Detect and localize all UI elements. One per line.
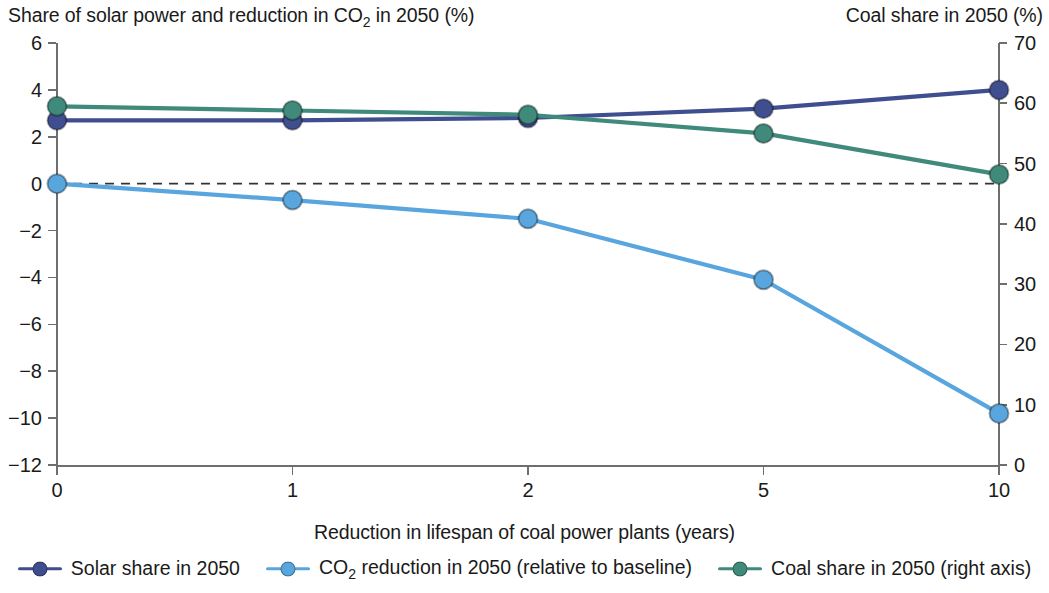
y-axis-right-tick-label: 0: [1014, 454, 1025, 477]
legend-label: Coal share in 2050 (right axis): [771, 557, 1031, 580]
data-point-marker[interactable]: [283, 101, 302, 120]
y-axis-left-tick-label: −6: [19, 313, 42, 336]
plot-area: [57, 43, 999, 465]
legend-label: Solar share in 2050: [71, 557, 240, 580]
y-axis-right-tick: [999, 42, 1007, 44]
data-point-marker[interactable]: [990, 404, 1009, 423]
x-axis-title: Reduction in lifespan of coal power plan…: [0, 521, 1049, 544]
plot-svg: [57, 43, 999, 465]
y-axis-left-tick-label: −4: [19, 266, 42, 289]
x-axis-tick-label: 0: [51, 479, 62, 502]
y-axis-left-tick-label: 6: [31, 32, 42, 55]
y-axis-left-tick: [48, 324, 56, 326]
legend-marker-icon: [18, 558, 62, 580]
y-axis-left-tick: [48, 370, 56, 372]
y-axis-right-tick: [999, 223, 1007, 225]
y-axis-right-tick-label: 10: [1014, 393, 1036, 416]
left-axis-title-tail: in 2050 (%): [371, 4, 475, 26]
data-point-marker[interactable]: [754, 270, 773, 289]
legend-item[interactable]: Solar share in 2050: [18, 557, 240, 580]
y-axis-left-tick: [48, 136, 56, 138]
y-axis-right-tick-label: 50: [1014, 152, 1036, 175]
left-axis-title: Share of solar power and reduction in CO…: [8, 4, 474, 30]
chart-legend: Solar share in 2050CO2 reduction in 2050…: [0, 556, 1049, 582]
data-point-marker[interactable]: [283, 191, 302, 210]
right-axis-title: Coal share in 2050 (%): [846, 4, 1043, 27]
legend-label: CO2 reduction in 2050 (relative to basel…: [319, 556, 692, 582]
series-group: [48, 80, 1009, 423]
x-axis-tick: [998, 466, 1000, 475]
y-axis-right-tick: [999, 102, 1007, 104]
x-axis-tick-label: 2: [522, 479, 533, 502]
y-axis-left-tick: [48, 464, 56, 466]
left-axis-title-subscript: 2: [363, 14, 371, 30]
x-axis-tick: [292, 466, 294, 475]
data-point-marker[interactable]: [519, 105, 538, 124]
data-point-marker[interactable]: [754, 99, 773, 118]
y-axis-left-tick-label: 2: [31, 125, 42, 148]
y-axis-right-tick: [999, 283, 1007, 285]
y-axis-left-tick-label: 0: [31, 172, 42, 195]
y-axis-right-tick: [999, 344, 1007, 346]
y-axis-left-tick: [48, 42, 56, 44]
data-point-marker[interactable]: [990, 165, 1009, 184]
data-point-marker[interactable]: [519, 209, 538, 228]
y-axis-right-tick-label: 60: [1014, 92, 1036, 115]
y-axis-left-tick-label: 4: [31, 78, 42, 101]
y-axis-right-tick-label: 70: [1014, 32, 1036, 55]
y-axis-left-tick: [48, 277, 56, 279]
x-axis-tick-label: 5: [758, 479, 769, 502]
y-axis-left-tick: [48, 230, 56, 232]
x-axis-tick-label: 10: [988, 479, 1010, 502]
y-axis-right-tick-label: 20: [1014, 333, 1036, 356]
chart-figure: Share of solar power and reduction in CO…: [0, 0, 1049, 593]
y-axis-left-tick-label: −12: [8, 454, 42, 477]
data-point-marker[interactable]: [990, 80, 1009, 99]
x-axis-tick: [527, 466, 529, 475]
x-axis-tick-label: 1: [287, 479, 298, 502]
legend-dot: [32, 561, 47, 576]
data-point-marker[interactable]: [754, 124, 773, 143]
legend-marker-icon: [266, 558, 310, 580]
data-point-marker[interactable]: [48, 97, 67, 116]
legend-item[interactable]: Coal share in 2050 (right axis): [718, 557, 1031, 580]
y-axis-right-tick-label: 40: [1014, 212, 1036, 235]
legend-item[interactable]: CO2 reduction in 2050 (relative to basel…: [266, 556, 692, 582]
y-axis-left-tick-label: −10: [8, 407, 42, 430]
legend-dot: [733, 561, 748, 576]
y-axis-right-tick-label: 30: [1014, 273, 1036, 296]
x-axis-tick: [56, 466, 58, 475]
legend-marker-icon: [718, 558, 762, 580]
y-axis-right-tick: [999, 464, 1007, 466]
legend-dot: [280, 561, 295, 576]
y-axis-left-tick-label: −8: [19, 360, 42, 383]
left-axis-title-main: Share of solar power and reduction in CO: [8, 4, 363, 26]
y-axis-left-tick: [48, 89, 56, 91]
x-axis-tick: [763, 466, 765, 475]
data-point-marker[interactable]: [48, 174, 67, 193]
y-axis-left-tick: [48, 417, 56, 419]
y-axis-left-tick-label: −2: [19, 219, 42, 242]
